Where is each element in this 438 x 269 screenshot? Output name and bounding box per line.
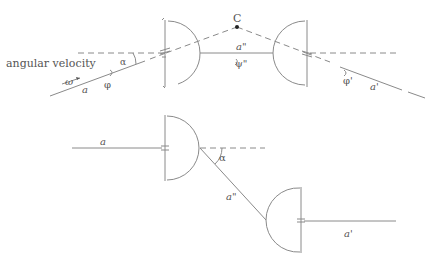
omega-label: ω bbox=[65, 76, 73, 87]
input-shaft-label: a bbox=[82, 84, 88, 95]
right-yoke-arc bbox=[266, 188, 300, 252]
intermediate-shaft-label: a" bbox=[226, 191, 237, 202]
intermediate-angle-label: ψ" bbox=[235, 58, 247, 69]
bottom-figure: a α a" a' bbox=[72, 115, 396, 253]
output-shaft-label: a' bbox=[344, 228, 353, 239]
axis-to-c-left bbox=[166, 27, 237, 53]
axis-to-c-right bbox=[237, 27, 306, 53]
angle-alpha-arc bbox=[133, 53, 136, 64]
top-figure: angular velocity ω a φ α C a" ψ" φ' a' bbox=[6, 12, 425, 98]
output-shaft-tail bbox=[408, 92, 425, 98]
left-yoke-arc bbox=[167, 116, 199, 180]
output-shaft-extension bbox=[306, 53, 330, 62]
left-yoke-arc bbox=[168, 21, 200, 84]
angular-velocity-label: angular velocity bbox=[6, 57, 97, 70]
input-shaft-extension bbox=[150, 53, 166, 59]
input-angle-label: φ bbox=[104, 79, 111, 90]
right-yoke-arc bbox=[273, 21, 305, 85]
angle-alpha-label: α bbox=[219, 152, 226, 163]
input-shaft-label: a bbox=[100, 136, 106, 147]
point-c-label: C bbox=[233, 12, 241, 25]
output-angle-label: φ' bbox=[343, 75, 353, 86]
point-c bbox=[235, 25, 239, 29]
universal-joint-diagram: angular velocity ω a φ α C a" ψ" φ' a' a… bbox=[0, 0, 438, 269]
output-shaft-label: a' bbox=[370, 81, 379, 92]
intermediate-shaft-label: a" bbox=[236, 41, 247, 52]
intermediate-shaft-line bbox=[200, 148, 266, 220]
angle-alpha-label: α bbox=[120, 57, 126, 67]
